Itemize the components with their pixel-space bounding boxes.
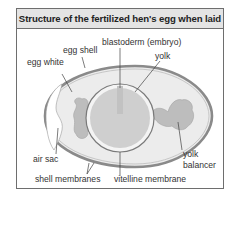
label-yolk-balancer-1: yolk — [183, 150, 198, 159]
label-shell-membranes: shell membranes — [35, 175, 100, 184]
label-egg-white: egg white — [27, 58, 64, 67]
label-egg-shell: egg shell — [63, 46, 97, 55]
label-yolk-balancer-2: balancer — [183, 161, 216, 170]
label-vitelline-membrane: vitelline membrane — [114, 175, 186, 184]
label-yolk: yolk — [155, 52, 170, 61]
leader-egg-shell — [82, 57, 85, 68]
label-blastoderm: blastoderm (embryo) — [102, 38, 181, 47]
blastoderm — [117, 86, 123, 114]
label-air-sac: air sac — [33, 155, 58, 164]
